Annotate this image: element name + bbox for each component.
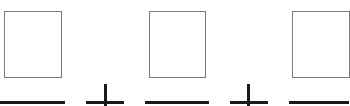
answer-blank-1[interactable] <box>0 101 65 104</box>
picture-box-1 <box>4 11 62 78</box>
answer-blank-2[interactable] <box>145 101 209 104</box>
picture-box-2 <box>149 11 206 78</box>
picture-box-3 <box>292 11 350 78</box>
plus-icon <box>86 84 124 106</box>
plus-icon <box>230 84 268 106</box>
answer-blank-3[interactable] <box>289 101 349 104</box>
